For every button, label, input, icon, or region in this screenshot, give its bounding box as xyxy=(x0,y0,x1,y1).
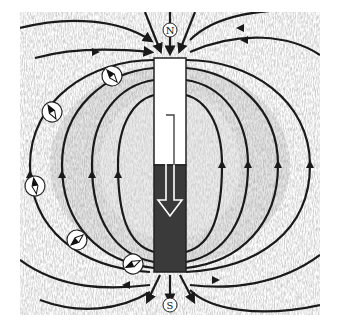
magnet-north-half xyxy=(154,58,186,165)
north-pole-label: N xyxy=(163,23,177,37)
south-label-text: S xyxy=(167,300,174,311)
magnet-field-diagram: N S xyxy=(0,0,340,329)
magnet-south-half xyxy=(154,165,186,272)
diagram-canvas: N S xyxy=(0,0,340,329)
north-label-text: N xyxy=(166,25,175,36)
south-pole-label: S xyxy=(163,298,177,312)
bar-magnet xyxy=(154,58,186,272)
